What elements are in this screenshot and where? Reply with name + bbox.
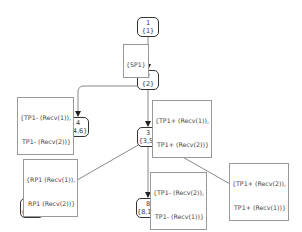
- state-node-1[interactable]: 1 {1}: [137, 17, 159, 37]
- label-line: RP1 (Recv(2))}: [26, 200, 75, 208]
- edge-label-3-7: {TP1+ (Recv(2)), TP1+ (Recv(1))}: [229, 163, 289, 221]
- label-line: {TP1- (Recv(1)),: [20, 114, 71, 122]
- edge-label-3-8: {TP1- (Recv(2)), TP1- (Recv(1))}: [150, 172, 207, 230]
- label-line: {TP1- (Recv(2)),: [153, 189, 204, 197]
- label-line: {TP1+ (Recv(2)),: [232, 180, 286, 188]
- edge-label-3-9: {RP1 (Recv(1)), RP1 (Recv(2))}: [23, 159, 78, 217]
- label-line: {SP1}: [126, 61, 146, 69]
- node-set: {1}: [138, 27, 158, 35]
- label-line: TP1- (Recv(1))}: [153, 213, 204, 221]
- node-set: {2}: [138, 80, 158, 88]
- edge-label-1-2: {SP1}: [123, 44, 149, 78]
- label-line: {TP1+ (Recv(1)),: [155, 117, 209, 125]
- edge-2-4: [78, 86, 137, 116]
- label-line: {RP1 (Recv(1)),: [26, 176, 75, 184]
- edge-label-2-3: {TP1+ (Recv(1)), TP1+ (Recv(2))}: [152, 100, 212, 158]
- edge-label-2-4: {TP1- (Recv(1)), TP1- (Recv(2))}: [17, 97, 74, 155]
- node-id: 1: [138, 19, 158, 27]
- label-line: TP1+ (Recv(1))}: [232, 204, 286, 212]
- label-line: TP1+ (Recv(2))}: [155, 141, 209, 149]
- label-line: TP1- (Recv(2))}: [20, 138, 71, 146]
